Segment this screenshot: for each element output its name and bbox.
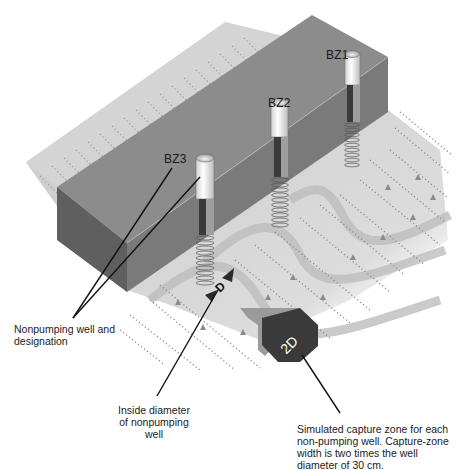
inside-diameter-annotation: Inside diameter of nonpumping well <box>114 404 194 440</box>
well-label-bz1: BZ1 <box>326 48 349 62</box>
well-label-bz3: BZ3 <box>164 152 187 166</box>
nonpumping-well-annotation: Nonpumping well and designation <box>14 323 124 347</box>
well-label-bz2: BZ2 <box>268 96 291 110</box>
well-capture-diagram <box>0 0 458 470</box>
capture-zone-annotation: Simulated capture zone for each non-pump… <box>297 423 457 470</box>
